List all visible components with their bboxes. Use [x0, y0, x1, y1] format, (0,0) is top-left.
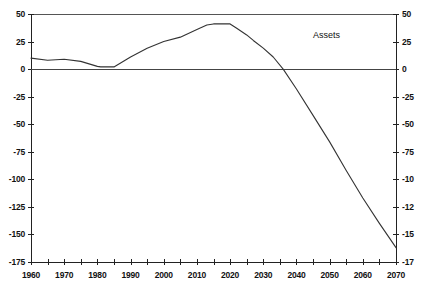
- y-tick-label-right: 0: [402, 64, 407, 74]
- y-tick-label-right: 50: [402, 9, 411, 19]
- y-tick-label-right: -15: [402, 229, 414, 239]
- assets-series-line: [31, 24, 396, 248]
- x-tick-label: 2000: [155, 270, 173, 280]
- assets-projection-chart: 50250-25-50-75-100-125-150-175 50250-25-…: [0, 0, 423, 293]
- x-tick-label: 2050: [321, 270, 339, 280]
- y-tick-label-left: -50: [13, 119, 25, 129]
- y-tick-label-right: -17: [402, 257, 414, 267]
- x-tick-label: 1970: [55, 270, 73, 280]
- x-tick-label: 2010: [188, 270, 206, 280]
- x-tick-label: 1980: [88, 270, 106, 280]
- chart-axes: [31, 14, 397, 263]
- y-tick-label-left: -150: [9, 229, 25, 239]
- y-tick-label-left: -100: [9, 174, 25, 184]
- y-tick-label-right: -75: [402, 147, 414, 157]
- y-tick-label-left: -25: [13, 92, 25, 102]
- y-tick-label-left: -75: [13, 147, 25, 157]
- y-tick-label-left: -175: [9, 257, 25, 267]
- chart-plot-area: [0, 0, 423, 293]
- y-tick-label-left: -125: [9, 202, 25, 212]
- y-tick-label-right: -50: [402, 119, 414, 129]
- x-tick-label: 1960: [22, 270, 40, 280]
- x-tick-label: 2070: [387, 270, 405, 280]
- y-tick-label-left: 50: [16, 9, 25, 19]
- y-tick-label-right: -12: [402, 202, 414, 212]
- assets-series-annotation: Assets: [313, 30, 340, 40]
- x-tick-label: 2040: [287, 270, 305, 280]
- y-tick-label-right: -10: [402, 174, 414, 184]
- x-tick-label: 2030: [254, 270, 272, 280]
- x-tick-label: 1990: [121, 270, 139, 280]
- x-tick-label: 2020: [221, 270, 239, 280]
- y-tick-label-left: 25: [16, 37, 25, 47]
- chart-tick-marks: [28, 15, 399, 266]
- x-tick-label: 2060: [354, 270, 372, 280]
- y-tick-label-right: -25: [402, 92, 414, 102]
- y-tick-label-left: 0: [20, 64, 25, 74]
- y-tick-label-right: 25: [402, 37, 411, 47]
